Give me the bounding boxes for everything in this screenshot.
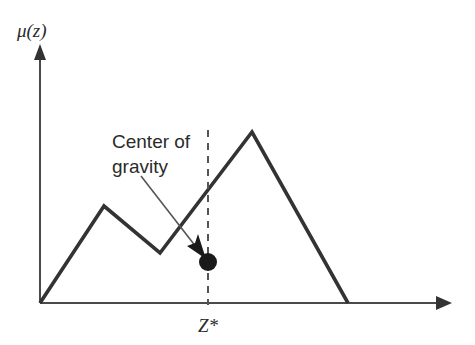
- center-of-gravity-dot: [199, 253, 217, 271]
- fuzzy-centroid-defuzzification-figure: μ(z) Center of gravity Z*: [0, 0, 475, 345]
- z-star-axis-label: Z*: [198, 315, 219, 336]
- x-axis: [40, 296, 452, 310]
- annotation-label-line2: gravity: [112, 156, 168, 177]
- y-axis-label: μ(z): [16, 20, 47, 42]
- annotation-label-line1: Center of: [112, 131, 191, 152]
- y-axis: [34, 44, 46, 303]
- y-axis-arrowhead-icon: [34, 44, 46, 60]
- figure-canvas: μ(z) Center of gravity Z*: [0, 0, 475, 345]
- x-axis-arrowhead-icon: [436, 296, 452, 310]
- membership-function-curve: [40, 132, 348, 303]
